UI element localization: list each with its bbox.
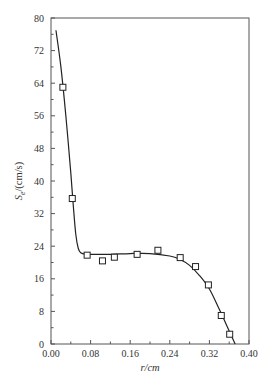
data-point-square <box>60 84 66 90</box>
y-tick-label: 8 <box>39 306 44 317</box>
y-tick-label: 80 <box>34 13 44 24</box>
y-tick-label: 32 <box>34 208 44 219</box>
data-point-square <box>205 282 211 288</box>
x-axis-ticks: 0.000.080.160.240.320.40 <box>42 340 258 359</box>
x-tick-label: 0.00 <box>42 348 60 359</box>
y-axis-ticks: 08162432404856647280 <box>34 13 55 350</box>
y-tick-label: 64 <box>34 78 44 89</box>
y-tick-label: 16 <box>34 273 44 284</box>
y-tick-label: 40 <box>34 176 44 187</box>
x-tick-label: 0.16 <box>121 348 139 359</box>
data-point-square <box>134 251 140 257</box>
y-tick-label: 56 <box>34 110 44 121</box>
chart: 0.000.080.160.240.320.40 081624324048566… <box>0 0 271 385</box>
x-tick-label: 0.32 <box>201 348 219 359</box>
data-markers <box>60 84 233 337</box>
data-point-square <box>111 254 117 260</box>
data-point-square <box>177 255 183 261</box>
data-point-square <box>69 196 75 202</box>
data-point-square <box>218 312 224 318</box>
data-point-square <box>99 258 105 264</box>
y-tick-label: 0 <box>39 339 44 350</box>
x-axis-title: r/cm <box>140 362 160 373</box>
data-point-square <box>84 252 90 258</box>
x-tick-label: 0.40 <box>240 348 258 359</box>
x-tick-label: 0.24 <box>161 348 179 359</box>
data-point-square <box>227 331 233 337</box>
y-tick-label: 48 <box>34 143 44 154</box>
data-point-square <box>193 264 199 270</box>
fit-curve <box>56 30 235 344</box>
y-axis-title: Se/(cm/s) <box>13 161 27 200</box>
plot-frame <box>51 18 249 344</box>
x-tick-label: 0.08 <box>82 348 100 359</box>
y-tick-label: 24 <box>34 241 44 252</box>
y-tick-label: 72 <box>34 45 44 56</box>
data-point-square <box>155 247 161 253</box>
